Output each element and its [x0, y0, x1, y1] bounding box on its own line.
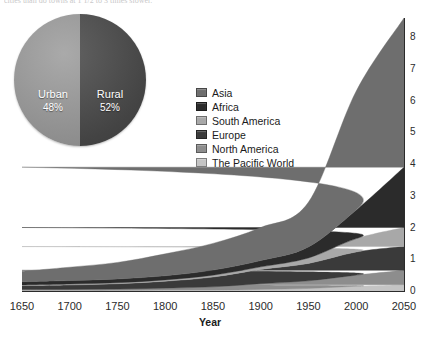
y-tick-label: 6	[410, 96, 432, 106]
x-axis-line	[22, 291, 405, 292]
y-tick-label: 5	[410, 127, 432, 137]
x-tick-label: 1950	[289, 300, 329, 312]
population-figure: cities than do towns at 1 1/2 to 3 times…	[0, 0, 445, 337]
x-tick-label: 1700	[50, 300, 90, 312]
x-tick-label: 1850	[193, 300, 233, 312]
x-tick-label: 1800	[145, 300, 185, 312]
y-tick-label: 0	[410, 286, 432, 296]
x-tick-label: 1650	[2, 300, 42, 312]
x-axis-title: Year	[0, 316, 420, 328]
figure-caption: cities than do towns at 1 1/2 to 3 times…	[4, 0, 264, 6]
x-tick-label: 2000	[336, 300, 376, 312]
y-axis-line	[404, 18, 405, 292]
x-tick-label: 1900	[241, 300, 281, 312]
y-tick-label: 2	[410, 223, 432, 233]
x-tick-label: 1750	[98, 300, 138, 312]
stacked-area-plot	[22, 18, 404, 291]
y-tick-label: 4	[410, 159, 432, 169]
x-tick-label: 2050	[384, 300, 424, 312]
y-tick-label: 8	[410, 32, 432, 42]
y-tick-label: 3	[410, 191, 432, 201]
y-tick-label: 1	[410, 254, 432, 264]
y-tick-label: 7	[410, 64, 432, 74]
area-chart-svg	[22, 18, 404, 291]
